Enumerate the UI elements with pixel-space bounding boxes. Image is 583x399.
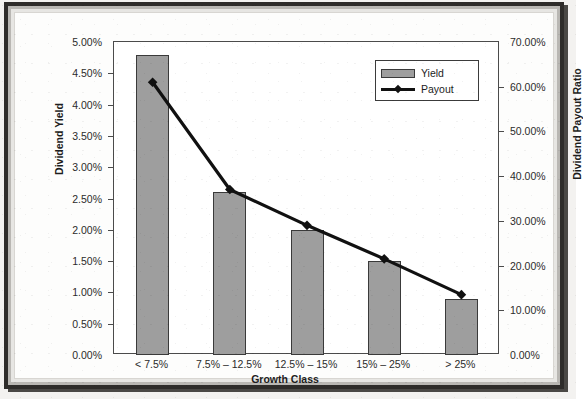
x-category-label-1: 7.5% – 12.5% xyxy=(196,358,261,370)
left-tick-label: 3.50% xyxy=(44,130,102,142)
left-tick-label: 4.00% xyxy=(44,99,102,111)
legend-label-yield: Yield xyxy=(421,67,444,79)
chart-legend: Yield Payout xyxy=(375,60,479,101)
legend-label-payout: Payout xyxy=(421,83,454,95)
left-tick-label: 0.00% xyxy=(44,349,102,361)
right-axis-title: Dividend Payout Ratio xyxy=(571,34,583,214)
legend-item-yield: Yield xyxy=(381,65,473,81)
x-category-label-3: 15% – 25% xyxy=(356,358,410,370)
payout-marker-4 xyxy=(457,290,467,300)
left-tick-label: 1.00% xyxy=(44,286,102,298)
x-axis-title: Growth Class xyxy=(15,373,555,385)
right-tick-label: 40.00% xyxy=(510,170,572,182)
left-tick-label: 2.00% xyxy=(44,224,102,236)
right-tick-label: 20.00% xyxy=(510,260,572,272)
x-category-label-0: < 7.5% xyxy=(135,358,168,370)
left-tick-label: 5.00% xyxy=(44,36,102,48)
right-tick-label: 50.00% xyxy=(510,125,572,137)
legend-line-swatch-icon xyxy=(381,85,415,94)
left-tick-label: 0.50% xyxy=(44,318,102,330)
payout-line-path xyxy=(153,82,462,294)
right-tick-label: 0.00% xyxy=(510,349,572,361)
right-tick-label: 70.00% xyxy=(510,36,572,48)
left-tick-label: 3.00% xyxy=(44,161,102,173)
right-tick-label: 60.00% xyxy=(510,81,572,93)
right-tick-label: 10.00% xyxy=(510,304,572,316)
chart-canvas: Dividend Yield Dividend Payout Ratio 0.0… xyxy=(14,12,554,379)
left-tick-label: 2.50% xyxy=(44,193,102,205)
left-tick-label: 1.50% xyxy=(44,255,102,267)
left-tick-label: 4.50% xyxy=(44,67,102,79)
x-category-label-4: > 25% xyxy=(445,358,475,370)
payout-marker-2 xyxy=(302,221,312,231)
x-category-label-2: 12.5% – 15% xyxy=(275,358,337,370)
right-tick-label: 30.00% xyxy=(510,215,572,227)
payout-marker-3 xyxy=(379,254,389,264)
legend-item-payout: Payout xyxy=(381,81,473,97)
legend-bar-swatch-icon xyxy=(381,69,415,78)
